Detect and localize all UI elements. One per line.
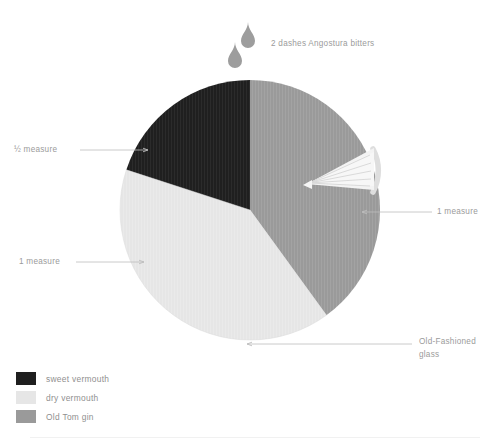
legend-swatch-old-tom-gin [16,410,36,423]
annotation-one-measure-right: 1 measure [437,205,478,218]
annotation-half-measure: ½ measure [14,143,57,156]
legend: sweet vermouth dry vermouth Old Tom gin [16,369,216,426]
legend-label-sweet-vermouth: sweet vermouth [46,374,109,384]
annotation-one-measure-left: 1 measure [19,255,60,268]
annotation-glass-line-1: Old-Fashioned [419,335,489,348]
legend-swatch-dry-vermouth [16,391,36,404]
droplet-icon [228,42,242,68]
annotation-glass-line-2: glass [419,348,489,361]
cocktail-pie-diagram: 2 dashes Angostura bitters ½ measure 1 m… [0,0,494,445]
annotation-bitters: 2 dashes Angostura bitters [271,37,374,50]
annotation-glass: Old-Fashioned glass [419,335,489,361]
legend-swatch-sweet-vermouth [16,372,36,385]
legend-item-old-tom-gin: Old Tom gin [16,407,216,426]
droplet-icon [241,22,255,48]
footer-divider [30,437,480,438]
legend-item-dry-vermouth: dry vermouth [16,388,216,407]
legend-label-dry-vermouth: dry vermouth [46,393,98,403]
legend-item-sweet-vermouth: sweet vermouth [16,369,216,388]
legend-label-old-tom-gin: Old Tom gin [46,412,94,422]
